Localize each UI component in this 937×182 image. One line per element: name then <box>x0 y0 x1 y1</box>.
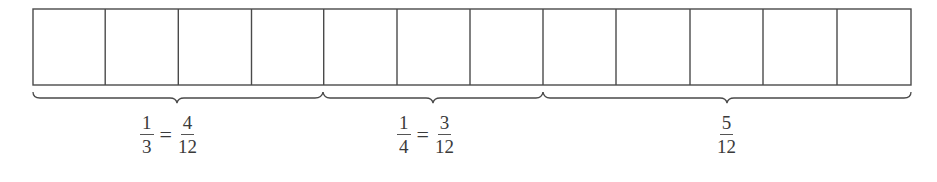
numerator: 1 <box>397 113 411 135</box>
group-3-label: 5 12 <box>717 113 736 156</box>
numerator: 5 <box>720 113 734 135</box>
fraction-three-twelfths: 3 12 <box>435 113 454 156</box>
numerator: 3 <box>438 113 452 135</box>
brace-group-1 <box>33 92 323 103</box>
denominator: 12 <box>717 135 736 156</box>
equals-sign: = <box>417 122 429 148</box>
equals-sign: = <box>160 122 172 148</box>
fraction-five-twelfths: 5 12 <box>717 113 736 156</box>
numerator: 1 <box>140 113 154 135</box>
bar-outline <box>33 9 911 85</box>
fraction-one-quarter: 1 4 <box>397 113 411 156</box>
denominator: 3 <box>142 135 152 156</box>
twelve-part-bar <box>33 9 911 85</box>
fraction-four-twelfths: 4 12 <box>178 113 197 156</box>
fraction-one-third: 1 3 <box>140 113 154 156</box>
brace-group-2 <box>323 92 543 103</box>
denominator: 4 <box>399 135 409 156</box>
group-braces <box>33 92 911 103</box>
denominator: 12 <box>435 135 454 156</box>
denominator: 12 <box>178 135 197 156</box>
group-2-label: 1 4 = 3 12 <box>397 113 454 156</box>
numerator: 4 <box>181 113 195 135</box>
brace-group-3 <box>543 92 911 103</box>
group-1-label: 1 3 = 4 12 <box>140 113 197 156</box>
